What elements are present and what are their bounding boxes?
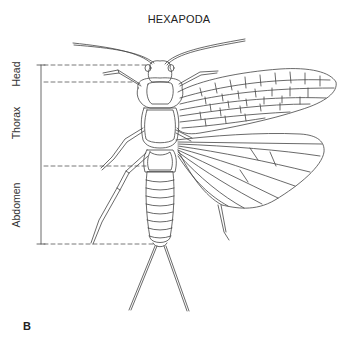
hindwing [176, 133, 324, 208]
forewing [177, 69, 336, 134]
insect-diagram [0, 0, 358, 341]
left-legs [91, 70, 148, 244]
thorax [137, 78, 183, 172]
region-bracket [37, 65, 45, 244]
head [145, 61, 174, 82]
panel-label: B [23, 320, 31, 332]
cerci [129, 246, 189, 311]
abdomen [146, 172, 174, 247]
region-divider-lines [44, 65, 156, 244]
